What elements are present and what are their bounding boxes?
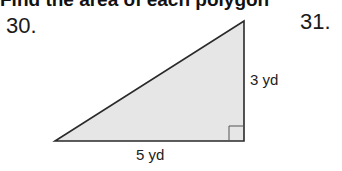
height-label: 3 yd (250, 71, 278, 88)
right-triangle-figure (0, 0, 342, 171)
triangle-shape (55, 21, 244, 141)
base-label: 5 yd (136, 146, 164, 163)
